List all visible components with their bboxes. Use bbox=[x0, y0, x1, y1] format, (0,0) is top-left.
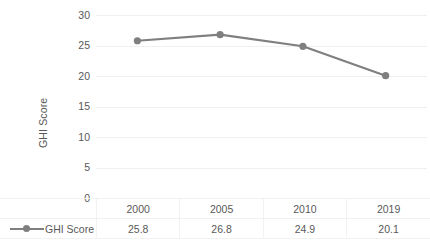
y-tick-5: 5 bbox=[58, 161, 90, 174]
table-header-2019: 2019 bbox=[347, 199, 430, 219]
table-header-row: 2000 2005 2010 2019 bbox=[0, 199, 430, 219]
table-row: GHI Score 25.8 26.8 24.9 20.1 bbox=[0, 219, 430, 239]
table-header-2010: 2010 bbox=[263, 199, 346, 219]
data-point-2010[interactable] bbox=[299, 43, 306, 50]
table-header-2000: 2000 bbox=[97, 199, 180, 219]
table-header-2005: 2005 bbox=[180, 199, 263, 219]
y-tick-30: 30 bbox=[58, 9, 90, 22]
data-point-2000[interactable] bbox=[134, 37, 141, 44]
y-tick-20: 20 bbox=[58, 70, 90, 83]
y-tick-15: 15 bbox=[58, 100, 90, 113]
data-table: 2000 2005 2010 2019 GHI Score 25.8 26. bbox=[0, 198, 430, 239]
series-line bbox=[137, 35, 385, 76]
table-value-2019: 20.1 bbox=[347, 219, 430, 239]
series-ghi-score bbox=[96, 15, 427, 199]
y-tick-10: 10 bbox=[58, 131, 90, 144]
line-chart: GHI Score 30 25 20 15 10 5 0 2000 2005 2 bbox=[0, 0, 430, 241]
data-point-2019[interactable] bbox=[382, 72, 389, 79]
legend-label: GHI Score bbox=[44, 223, 94, 235]
y-tick-25: 25 bbox=[58, 39, 90, 52]
table-value-2005: 26.8 bbox=[180, 219, 263, 239]
y-axis-tick-labels: 30 25 20 15 10 5 0 bbox=[58, 9, 90, 205]
legend-entry[interactable]: GHI Score bbox=[0, 219, 97, 239]
table-value-2000: 25.8 bbox=[97, 219, 180, 239]
data-point-2005[interactable] bbox=[217, 31, 224, 38]
line-with-circle-marker-icon bbox=[10, 224, 44, 234]
table-corner-cell bbox=[0, 199, 97, 219]
plot-area bbox=[96, 15, 427, 199]
table-value-2010: 24.9 bbox=[263, 219, 346, 239]
